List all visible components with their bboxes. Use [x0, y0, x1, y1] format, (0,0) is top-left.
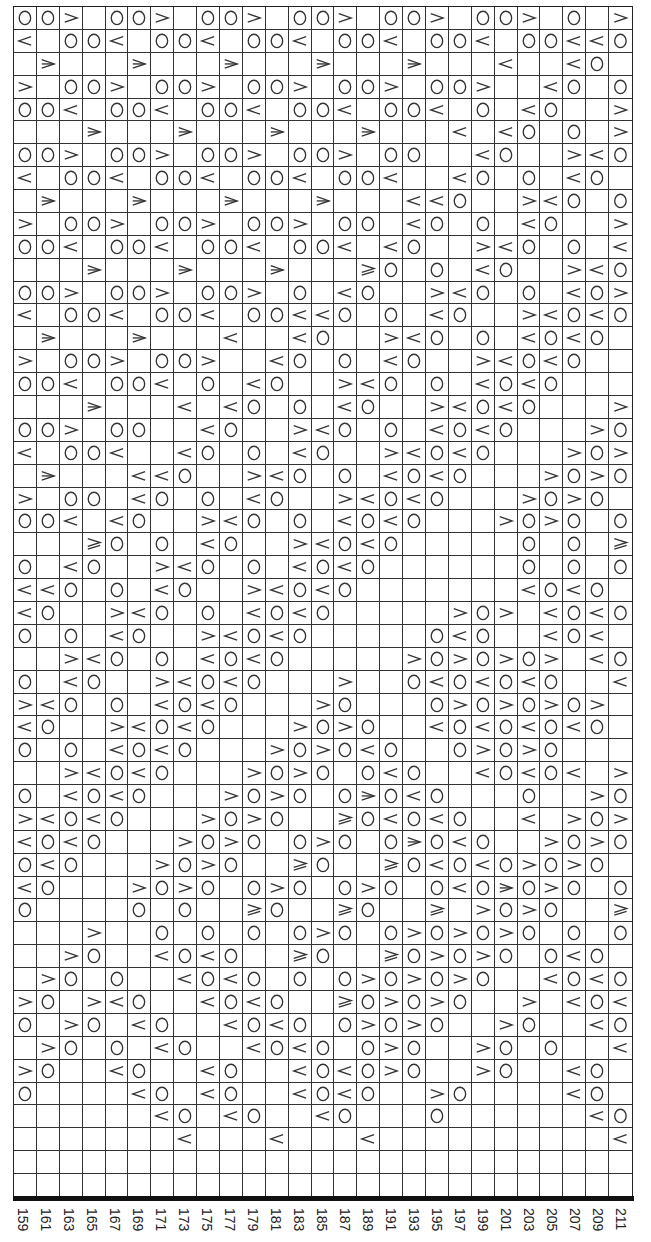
chart-cell	[540, 877, 563, 900]
chart-cell	[449, 373, 472, 396]
chart-cell	[151, 1151, 174, 1174]
chart-cell	[518, 991, 541, 1014]
column-label-text: 179	[245, 1208, 261, 1231]
chart-cell	[197, 533, 220, 556]
chart-cell	[14, 625, 37, 648]
chart-cell	[220, 350, 243, 373]
column-label-text: 185	[314, 1208, 330, 1231]
chart-cell	[586, 1083, 609, 1106]
chart-cell	[426, 510, 449, 533]
chart-cell	[380, 350, 403, 373]
chart-cell	[312, 762, 335, 785]
chart-cell	[151, 1083, 174, 1106]
chart-cell	[609, 327, 632, 350]
chart-cell	[495, 167, 518, 190]
chart-cell	[128, 1151, 151, 1174]
chart-cell	[243, 1083, 266, 1106]
chart-cell	[37, 282, 60, 305]
chart-cell	[83, 625, 106, 648]
chart-cell	[495, 1083, 518, 1106]
chart-cell	[495, 877, 518, 900]
chart-cell	[83, 190, 106, 213]
chart-cell	[14, 1083, 37, 1106]
chart-cell	[106, 76, 129, 99]
chart-cell	[495, 396, 518, 419]
chart-cell	[540, 716, 563, 739]
chart-cell	[266, 259, 289, 282]
chart-cell	[243, 304, 266, 327]
chart-cell	[83, 373, 106, 396]
chart-cell	[586, 922, 609, 945]
chart-cell	[151, 30, 174, 53]
chart-cell	[312, 99, 335, 122]
column-label: 185	[312, 1208, 335, 1242]
chart-cell	[563, 419, 586, 442]
chart-cell	[37, 625, 60, 648]
chart-cell	[540, 419, 563, 442]
chart-cell	[60, 579, 83, 602]
chart-cell	[586, 694, 609, 717]
chart-cell	[472, 533, 495, 556]
chart-cell	[426, 945, 449, 968]
chart-cell	[449, 602, 472, 625]
chart-cell	[472, 1060, 495, 1083]
chart-cell	[106, 808, 129, 831]
chart-cell	[540, 510, 563, 533]
chart-cell	[334, 533, 357, 556]
column-label-text: 165	[84, 1208, 100, 1231]
chart-cell	[197, 694, 220, 717]
chart-cell	[60, 533, 83, 556]
chart-cell	[174, 1128, 197, 1151]
chart-cell	[83, 785, 106, 808]
chart-cell	[357, 808, 380, 831]
chart-cell	[449, 1083, 472, 1106]
chart-cell	[37, 922, 60, 945]
chart-cell	[266, 7, 289, 30]
chart-cell	[60, 739, 83, 762]
chart-cell	[563, 625, 586, 648]
chart-cell	[518, 945, 541, 968]
chart-cell	[83, 854, 106, 877]
chart-cell	[128, 1174, 151, 1197]
chart-cell	[220, 671, 243, 694]
chart-cell	[403, 327, 426, 350]
chart-cell	[449, 694, 472, 717]
chart-cell	[37, 899, 60, 922]
chart-cell	[128, 602, 151, 625]
chart-cell	[220, 899, 243, 922]
chart-cell	[106, 1128, 129, 1151]
chart-cell	[243, 785, 266, 808]
chart-cell	[472, 694, 495, 717]
chart-cell	[243, 602, 266, 625]
chart-cell	[563, 488, 586, 511]
chart-cell	[472, 785, 495, 808]
chart-cell	[60, 1151, 83, 1174]
chart-cell	[449, 556, 472, 579]
chart-cell	[609, 144, 632, 167]
chart-cell	[266, 1174, 289, 1197]
chart-cell	[609, 510, 632, 533]
chart-cell	[243, 419, 266, 442]
chart-cell	[334, 945, 357, 968]
column-label-text: 189	[360, 1208, 376, 1231]
chart-cell	[197, 1037, 220, 1060]
column-label-text: 169	[130, 1208, 146, 1231]
chart-cell	[357, 53, 380, 76]
chart-cell	[403, 1060, 426, 1083]
chart-cell	[518, 854, 541, 877]
chart-cell	[60, 99, 83, 122]
chart-cell	[128, 1083, 151, 1106]
chart-cell	[128, 556, 151, 579]
chart-cell	[426, 1014, 449, 1037]
chart-cell	[334, 1105, 357, 1128]
chart-cell	[563, 854, 586, 877]
chart-cell	[449, 808, 472, 831]
chart-cell	[403, 350, 426, 373]
chart-cell	[289, 556, 312, 579]
chart-cell	[472, 304, 495, 327]
chart-cell	[357, 945, 380, 968]
chart-cell	[609, 30, 632, 53]
chart-cell	[151, 121, 174, 144]
chart-cell	[518, 922, 541, 945]
chart-cell	[334, 991, 357, 1014]
